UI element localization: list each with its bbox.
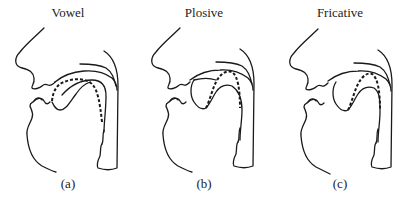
face-lower-profile xyxy=(163,98,192,172)
panel-label: (c) xyxy=(272,176,408,192)
panel-plosive: Plosive (b) xyxy=(136,0,272,199)
velum-line xyxy=(194,79,216,81)
face-lower-profile xyxy=(301,99,330,174)
panel-fricative: Fricative (c) xyxy=(272,0,408,199)
tongue-contour xyxy=(206,71,240,108)
face-upper-profile xyxy=(152,28,190,89)
lower-lip xyxy=(34,98,50,103)
vocal-tract-diagram xyxy=(136,0,272,199)
panel-label: (a) xyxy=(0,176,136,192)
face-upper-profile xyxy=(16,28,55,89)
tongue-contour xyxy=(52,79,102,122)
face-lower-profile xyxy=(27,98,56,172)
vocal-tract-diagram xyxy=(272,0,408,199)
lower-lip xyxy=(308,99,324,104)
panel-vowel: Vowel (a) xyxy=(0,0,136,199)
vocal-tract-figure: Vowel (a) Plosive xyxy=(0,0,409,199)
face-upper-profile xyxy=(290,29,328,90)
tongue-contour xyxy=(348,73,380,110)
panel-label: (b) xyxy=(136,176,272,192)
throat-front xyxy=(102,130,104,144)
nasal-passage xyxy=(80,64,116,86)
vocal-tract-diagram xyxy=(0,0,136,199)
tongue-tip xyxy=(191,80,242,140)
tongue-tip xyxy=(333,82,380,142)
lower-lip xyxy=(170,98,186,103)
